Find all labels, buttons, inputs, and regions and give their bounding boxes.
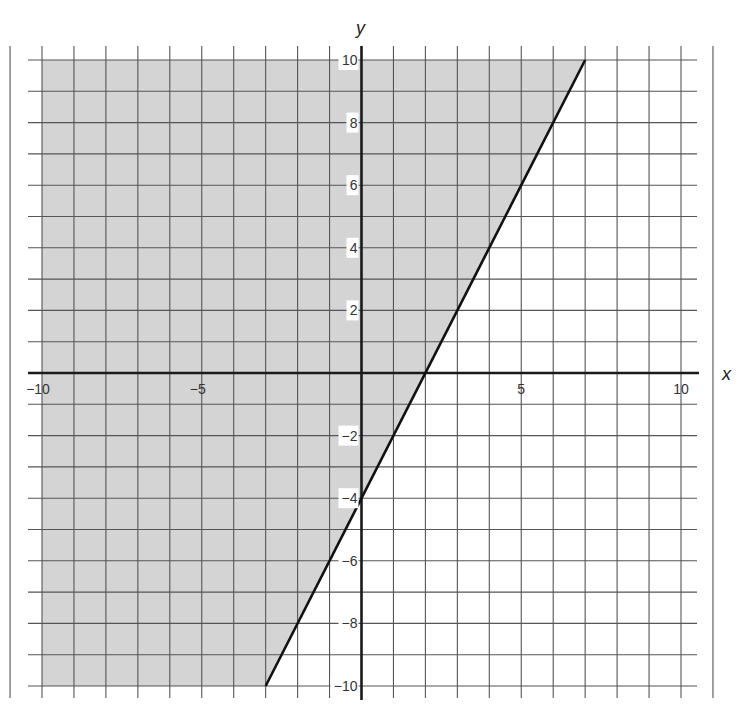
x-tick-label: 5: [517, 381, 525, 397]
y-tick-label: −2: [342, 428, 358, 444]
coordinate-plane: −10−5510108642−2−4−6−8−10 x y: [0, 0, 747, 716]
y-tick-label: −6: [342, 553, 358, 569]
y-axis-title: y: [354, 18, 366, 38]
y-tick-label: −8: [342, 615, 358, 631]
x-tick-label: −10: [26, 381, 50, 397]
y-tick-label: 2: [350, 302, 358, 318]
y-tick-label: 10: [342, 52, 358, 68]
y-tick-label: 8: [350, 115, 358, 131]
x-tick-label: −5: [190, 381, 206, 397]
x-axis-title: x: [721, 364, 732, 384]
y-tick-label: 4: [350, 240, 358, 256]
y-tick-label: 6: [350, 177, 358, 193]
x-tick-label: 10: [673, 381, 689, 397]
y-tick-label: −4: [342, 490, 358, 506]
y-tick-label: −10: [334, 678, 358, 694]
